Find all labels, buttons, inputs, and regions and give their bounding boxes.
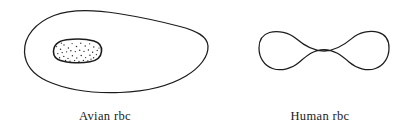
- human-rbc-outline: [259, 31, 389, 69]
- rbc-comparison-figure: Avian rbc Human rbc: [0, 0, 407, 137]
- avian-rbc-outline: [24, 11, 208, 93]
- avian-rbc-nucleus: [54, 39, 102, 63]
- human-rbc-label: Human rbc: [245, 109, 395, 124]
- avian-rbc-label: Avian rbc: [0, 109, 210, 124]
